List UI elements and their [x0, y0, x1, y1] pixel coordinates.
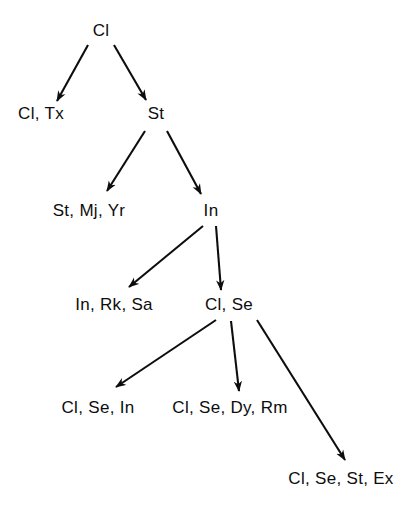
arrow-in-to-cl-se	[216, 226, 221, 290]
arrow-st-to-in	[167, 131, 201, 194]
node-cl-se-in: Cl, Se, In	[62, 398, 135, 418]
node-cl: Cl	[93, 21, 110, 41]
node-cl-tx: Cl, Tx	[18, 104, 64, 124]
node-st-mj-yr: St, Mj, Yr	[53, 201, 126, 221]
arrow-in-to-in-rk-sa	[129, 226, 203, 287]
node-cl-se-dy-rm: Cl, Se, Dy, Rm	[172, 398, 287, 418]
arrow-cl-se-to-cl-se-st-ex	[257, 320, 345, 460]
node-st: St	[148, 104, 165, 124]
edge-layer	[0, 0, 403, 507]
arrow-cl-to-cl-tx	[57, 45, 88, 101]
arrow-cl-to-st	[114, 45, 146, 100]
node-in-rk-sa: In, Rk, Sa	[75, 295, 153, 315]
node-in: In	[204, 201, 219, 221]
arrow-cl-se-to-cl-se-dy-rm	[231, 321, 239, 391]
node-cl-se-st-ex: Cl, Se, St, Ex	[288, 469, 393, 489]
tree-diagram: ClCl, TxStSt, Mj, YrInIn, Rk, SaCl, SeCl…	[0, 0, 403, 507]
node-cl-se: Cl, Se	[205, 295, 253, 315]
arrow-cl-se-to-cl-se-in	[116, 320, 216, 387]
arrow-st-to-st-mj-yr	[107, 131, 145, 191]
